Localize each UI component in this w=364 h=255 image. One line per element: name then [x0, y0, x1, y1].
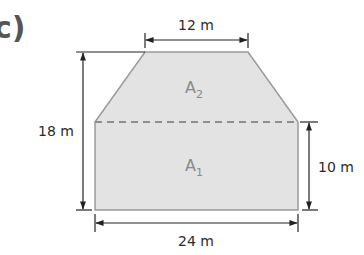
composite-shape — [95, 52, 298, 210]
part-label: c) — [0, 10, 26, 45]
rectangle-height-label: 10 m — [318, 159, 354, 175]
bottom-width-label: 24 m — [178, 233, 214, 249]
dimension-top-width: 12 m — [145, 17, 248, 48]
top-width-label: 12 m — [178, 17, 214, 33]
dimension-rectangle-height: 10 m — [300, 122, 354, 210]
composite-shape-diagram: c) A2 A1 12 m 18 m 10 m 24 m — [0, 0, 364, 255]
dimension-bottom-width: 24 m — [95, 214, 298, 249]
total-height-label: 18 m — [38, 123, 74, 139]
